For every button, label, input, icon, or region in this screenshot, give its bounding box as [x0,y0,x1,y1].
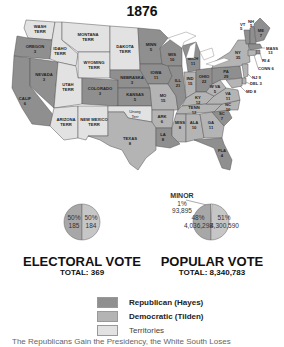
state-colorado[interactable]: COLORADO3 [82,78,118,106]
state-mississippi[interactable]: MISS8 [172,114,186,142]
state-oregon[interactable]: OREGON3 [14,36,52,59]
state-florida[interactable]: FLA4 [194,138,232,170]
state-maryland[interactable] [226,78,242,88]
state-new-mexico-terr[interactable]: NEW MEXICOTERR [78,106,108,140]
territory-swatch [97,325,118,336]
svg-text:TERR: TERR [62,87,73,92]
state-rhode-island[interactable] [256,50,260,54]
popular-rep-values: 48%4,036,298 [184,214,212,230]
svg-text:35: 35 [236,55,241,60]
state-delaware[interactable] [242,78,246,84]
svg-text:TERR: TERR [88,65,99,70]
svg-text:13: 13 [268,50,273,55]
svg-text:Terr: Terr [131,114,139,119]
legend: Republican (Hayes) Democratic (Tilden) T… [97,296,204,338]
electoral-vote-total: TOTAL: 369 [20,268,144,277]
svg-text:NJ 9: NJ 9 [252,75,262,80]
svg-text:22: 22 [202,79,207,84]
popular-vote-heading: POPULAR VOTE [150,254,274,269]
svg-text:DEL 3: DEL 3 [250,81,262,86]
svg-text:15: 15 [161,98,166,103]
svg-text:11: 11 [209,125,214,130]
state-massachusetts[interactable] [248,44,262,50]
state-arizona-terr[interactable]: ARIZONATERR [50,106,78,140]
svg-text:10: 10 [192,125,197,130]
svg-text:10: 10 [226,107,231,112]
map-title: 1876 [0,3,284,19]
state-kansas[interactable]: KANSAS5 [118,88,152,106]
svg-text:11: 11 [191,61,196,66]
svg-text:15: 15 [188,81,193,86]
svg-text:TERR: TERR [60,122,71,127]
state-maine[interactable]: ME7 [254,18,270,42]
legend-item-democratic: Democratic (Tilden) [97,310,204,322]
svg-text:TERR: TERR [88,122,99,127]
svg-text:29: 29 [224,74,229,79]
svg-text:RI 4: RI 4 [262,58,270,63]
caption: The Republicans Gain the Presidency, the… [12,337,284,346]
svg-text:11: 11 [226,96,231,101]
democratic-swatch [97,311,118,322]
electoral-dem-values: 50%184 [83,214,99,230]
state-dakota-terr[interactable]: DAKOTATERR [110,26,140,70]
electoral-vote-heading: ELECTORAL VOTE [20,254,144,269]
popular-vote-total: TOTAL: 8,340,783 [150,268,274,277]
svg-text:10: 10 [170,57,175,62]
svg-text:11: 11 [154,75,159,80]
electoral-rep-values: 50%185 [66,214,82,230]
legend-item-territories: Territories [97,324,204,336]
popular-dem-values: 51%4,300,590 [210,214,238,230]
state-arkansas[interactable]: ARK6 [152,110,174,128]
svg-text:TERR: TERR [54,51,65,56]
svg-text:TERR: TERR [119,49,130,54]
legend-item-republican: Republican (Hayes) [97,296,204,308]
state-wyoming-terr[interactable]: WYOMINGTERR [78,52,110,78]
us-election-map: WASHTERR OREGON3 CALIF6 NEVADA3 IDAHOTER… [0,18,284,218]
state-new-jersey[interactable] [242,64,248,78]
svg-text:21: 21 [176,83,181,88]
svg-text:TERR: TERR [82,37,93,42]
svg-text:CONN 6: CONN 6 [258,66,274,71]
republican-swatch [97,297,118,308]
svg-text:MD 8: MD 8 [246,89,257,94]
svg-text:TERR: TERR [34,29,45,34]
state-connecticut[interactable] [248,50,256,56]
state-wash-terr[interactable]: WASHTERR [24,20,55,40]
